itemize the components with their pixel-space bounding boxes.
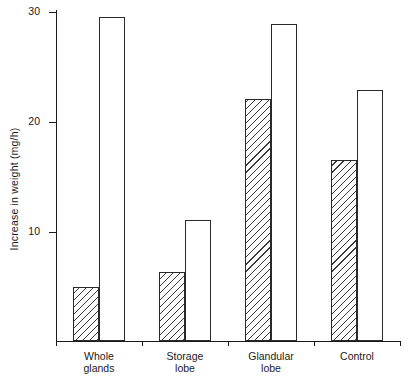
plot-area	[56, 10, 400, 342]
category-label-line: lobe	[225, 362, 317, 374]
bar-open-2	[271, 24, 297, 341]
category-label-3: Control	[311, 350, 403, 362]
y-tick-10	[49, 232, 56, 233]
bar-open-3	[357, 90, 383, 341]
group-tick-right	[400, 341, 401, 346]
group-tick-left-3	[314, 341, 315, 346]
y-tick-20	[49, 122, 56, 123]
category-label-line: lobe	[139, 362, 231, 374]
bar-chart-figure: Increase in weight (mg/h) 102030 Wholegl…	[0, 0, 408, 378]
y-tick-30	[49, 12, 56, 13]
category-label-line: Storage	[139, 350, 231, 362]
bar-hatched-3	[331, 160, 357, 342]
y-tick-label-20: 20	[4, 116, 40, 126]
y-tick-label-10: 10	[4, 226, 40, 236]
y-axis-title: Increase in weight (mg/h)	[6, 0, 22, 378]
category-label-2: Glandularlobe	[225, 350, 317, 374]
bar-hatched-0	[73, 287, 99, 341]
bar-open-1	[185, 220, 211, 341]
group-tick-left-2	[228, 341, 229, 346]
group-tick-left-0	[56, 341, 57, 346]
category-label-line: Whole	[53, 350, 145, 362]
y-axis-line	[56, 10, 57, 342]
category-label-0: Wholeglands	[53, 350, 145, 374]
category-label-line: Glandular	[225, 350, 317, 362]
bar-hatched-2	[245, 99, 271, 341]
group-tick-left-1	[142, 341, 143, 346]
bar-open-0	[99, 17, 125, 342]
category-label-line: Control	[311, 350, 403, 362]
y-tick-label-30: 30	[4, 6, 40, 16]
category-label-line: glands	[53, 362, 145, 374]
category-label-1: Storagelobe	[139, 350, 231, 374]
bar-hatched-1	[159, 272, 185, 341]
